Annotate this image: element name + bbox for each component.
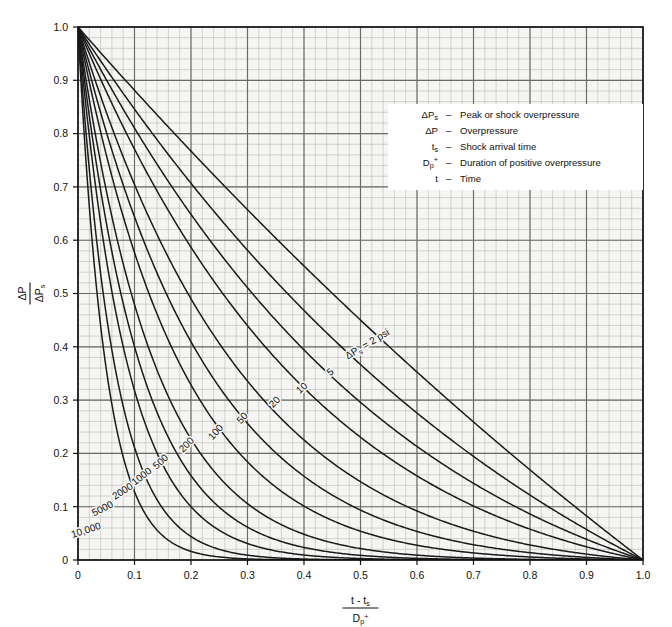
y-tick-label: 1.0 [53, 21, 68, 33]
x-tick-label: 0.9 [579, 569, 594, 581]
legend-symbol: t [435, 173, 438, 184]
y-tick-label: 0.1 [53, 501, 68, 513]
legend: ΔPs–Peak or shock overpressureΔP–Overpre… [388, 104, 643, 190]
y-tick-label: 0.2 [53, 447, 68, 459]
legend-dash: – [446, 157, 452, 168]
legend-dash: – [446, 173, 452, 184]
overpressure-decay-chart: 00.10.20.30.40.50.60.70.80.91.0 00.10.20… [0, 0, 672, 627]
legend-entry-text: Overpressure [460, 125, 518, 136]
legend-symbol: ΔP [425, 125, 438, 136]
legend-entry-text: Time [460, 173, 481, 184]
y-tick-label: 0.6 [53, 234, 68, 246]
x-tick-label: 0.4 [297, 569, 312, 581]
x-tick-label: 0.7 [466, 569, 481, 581]
x-tick-label: 0.3 [240, 569, 255, 581]
x-tick-label: 0 [75, 569, 81, 581]
x-tick-label: 0.6 [410, 569, 425, 581]
y-tick-label: 0.3 [53, 394, 68, 406]
legend-entry-text: Shock arrival time [460, 141, 536, 152]
y-tick-label: 0.9 [53, 74, 68, 86]
legend-dash: – [446, 109, 452, 120]
x-tick-label: 0.1 [127, 569, 142, 581]
legend-entry-text: Peak or shock overpressure [460, 109, 579, 120]
y-tick-label: 0.7 [53, 181, 68, 193]
legend-dash: – [446, 141, 452, 152]
y-tick-label: 0.8 [53, 127, 68, 139]
y-tick-label: 0.4 [53, 341, 68, 353]
x-tick-label: 0.8 [523, 569, 538, 581]
x-tick-label: 0.2 [184, 569, 199, 581]
legend-dash: – [446, 125, 452, 136]
y-axis-numerator: ΔP [16, 286, 28, 300]
x-tick-label: 1.0 [636, 569, 651, 581]
y-tick-label: 0.5 [53, 287, 68, 299]
x-tick-label: 0.5 [353, 569, 368, 581]
y-tick-label: 0 [62, 554, 68, 566]
legend-entry-text: Duration of positive overpressure [460, 157, 601, 168]
